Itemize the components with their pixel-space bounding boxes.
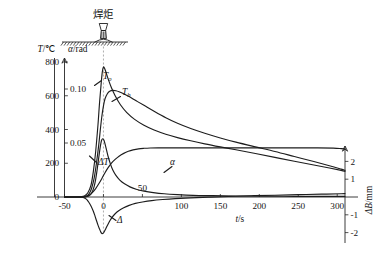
surface-hatch-tick — [120, 42, 123, 46]
y-axis-deflection-tick-label: 1 — [351, 174, 356, 184]
curve-label-delta: Δ — [116, 215, 123, 225]
leader-line-delta-t — [90, 156, 98, 163]
y-axis-deflection-title: ΔB/mm — [364, 185, 374, 215]
surface-hatch-tick — [111, 42, 114, 46]
y-axis-temperature-tick-label: 800 — [45, 57, 59, 67]
y-axis-temperature-title: T/℃ — [38, 44, 56, 54]
welding-torch-annotation: 焊炬 — [93, 8, 113, 20]
curve-label-delta-t: ΔT — [97, 157, 110, 167]
x-axis-tick-label: -50 — [58, 201, 71, 211]
welding-torch-group — [94, 24, 112, 43]
y-axis-temperature-tick-label: 0 — [54, 192, 59, 202]
curve-t-o — [65, 67, 346, 197]
y-axis-angle-title: α/rad — [68, 44, 88, 54]
surface-hatch-tick — [64, 42, 67, 46]
surface-hatch-tick — [123, 42, 126, 46]
curve-label-alpha: α — [170, 157, 176, 167]
x-axis-tick-label: 150 — [213, 201, 227, 211]
x-axis-tick-label: 0 — [101, 201, 106, 211]
y-axis-deflection-tick-label: 2 — [351, 157, 356, 167]
curve-label-t-o: To — [103, 71, 112, 82]
y-axis-temperature-tick-label: 400 — [45, 125, 59, 135]
leader-line-alpha — [164, 167, 172, 173]
x-axis-tick-label: 100 — [174, 201, 188, 211]
curve-label-t-b: Tb — [122, 87, 131, 98]
leader-line-t-o — [95, 81, 102, 86]
surface-hatch-tick — [92, 42, 95, 46]
surface-hatch-tick — [98, 42, 101, 46]
x-axis-title: t/s — [235, 214, 244, 224]
x-axis-tick-label: 250 — [291, 201, 305, 211]
surface-hatch-tick — [107, 42, 110, 46]
y-axis-deflection-tick-label: -1 — [351, 210, 359, 220]
curve-alpha — [65, 148, 346, 197]
x-axis-tick-label: 200 — [252, 201, 266, 211]
welding-thermal-deformation-figure: -5005010015020025030002004006008000.050.… — [0, 0, 383, 255]
surface-hatch-tick — [114, 42, 117, 46]
surface-hatch-tick — [61, 42, 64, 46]
x-axis-tick-label: 300 — [330, 201, 344, 211]
surface-hatch-tick — [89, 42, 92, 46]
y-axis-temperature-tick-label: 200 — [45, 158, 59, 168]
surface-hatch-tick — [117, 42, 120, 46]
y-axis-angle-tick-label: 0.10 — [70, 84, 86, 94]
y-axis-deflection-tick-label: -2 — [351, 228, 359, 238]
y-axis-temperature-tick-label: 600 — [45, 91, 59, 101]
chart-canvas: -5005010015020025030002004006008000.050.… — [0, 0, 383, 255]
welding-torch-icon — [94, 24, 112, 43]
surface-hatch-tick — [104, 42, 107, 46]
surface-hatch-tick — [95, 42, 98, 46]
y-axis-angle-tick-label: 0.05 — [70, 138, 86, 148]
